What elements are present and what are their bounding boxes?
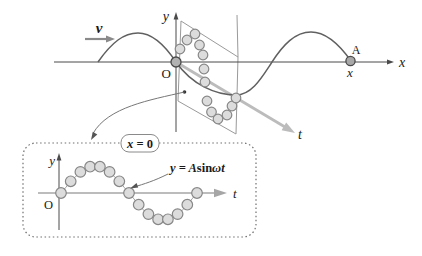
oscillation-bead xyxy=(222,110,232,120)
point-a-x-label: x xyxy=(346,65,353,80)
y-axis-arrowhead xyxy=(174,12,179,20)
oscillation-bead xyxy=(182,199,193,210)
main-t-axis-label: t xyxy=(298,127,303,142)
oscillation-bead xyxy=(114,176,125,187)
oscillation-bead xyxy=(163,214,174,225)
oscillation-bead xyxy=(124,188,135,199)
oscillation-bead xyxy=(192,188,203,199)
velocity-label: v xyxy=(96,20,103,36)
origin-bead xyxy=(171,57,181,67)
main-y-axis-label: y xyxy=(161,9,170,24)
inset-t-axis-label: t xyxy=(233,186,237,201)
oscillation-bead xyxy=(190,29,200,39)
x-axis-arrowhead xyxy=(387,60,394,65)
oscillation-bead xyxy=(75,167,86,178)
wave-diagram: v y O A x x t x = 0 y = Asinωt y O t xyxy=(0,0,422,256)
t-axis-arrowhead xyxy=(282,123,295,134)
main-x-axis-label: x xyxy=(398,55,406,70)
inset-panel: x = 0 y = Asinωt y O t xyxy=(23,135,256,238)
diagram-svg: v y O A x x t x = 0 y = Asinωt y O t xyxy=(0,0,422,256)
inset-callout-arrowhead xyxy=(91,132,97,140)
oscillation-bead xyxy=(202,96,212,106)
oscillation-bead xyxy=(133,199,144,210)
oscillation-bead xyxy=(172,209,183,220)
main-plane-beads xyxy=(175,29,241,124)
equation-label: y = Asinωt xyxy=(168,161,225,175)
inset-origin-label: O xyxy=(44,198,53,212)
oscillation-bead xyxy=(199,64,209,74)
yt-plane-right-edge-extension xyxy=(237,15,238,57)
oscillation-bead xyxy=(104,167,115,178)
oscillation-bead xyxy=(200,77,210,87)
oscillation-bead xyxy=(195,40,205,50)
inset-callout-curve xyxy=(93,92,185,134)
oscillation-bead xyxy=(213,114,223,124)
wave-curve xyxy=(98,32,351,95)
oscillation-bead xyxy=(65,176,76,187)
oscillation-bead xyxy=(175,44,185,54)
point-a-label: A xyxy=(352,43,361,57)
oscillation-bead xyxy=(143,209,154,220)
oscillation-bead xyxy=(56,188,67,199)
oscillation-bead xyxy=(153,214,164,225)
oscillation-bead xyxy=(231,93,241,103)
condition-label: x = 0 xyxy=(126,137,153,151)
main-diagram: v y O A x x t xyxy=(54,9,406,142)
inset-y-axis-label: y xyxy=(47,153,55,168)
oscillation-bead xyxy=(95,161,106,172)
oscillation-bead xyxy=(198,50,208,60)
main-origin-label: O xyxy=(162,66,171,81)
oscillation-bead xyxy=(85,161,96,172)
velocity-arrowhead xyxy=(106,36,115,43)
